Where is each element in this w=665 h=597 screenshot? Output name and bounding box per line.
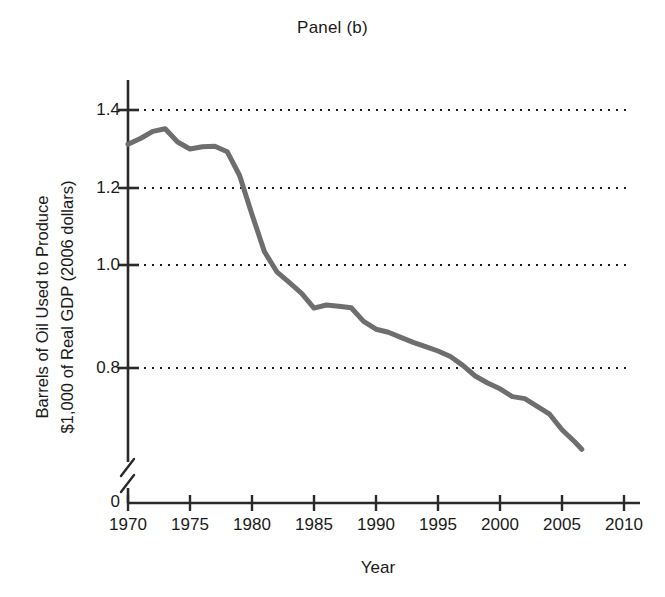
x-tick-label-2010: 2010	[593, 515, 655, 535]
y-tick-label-1.4: 1.4	[74, 100, 120, 120]
data-series-line	[128, 129, 582, 450]
chart-figure: Panel (b) Barrels of Oil Used to Produce…	[0, 0, 665, 597]
x-tick-label-1970: 1970	[97, 515, 159, 535]
x-tick-label-2000: 2000	[469, 515, 531, 535]
y-axis-title-line2: $1,000 of Real GDP (2006 dollars)	[58, 181, 76, 434]
x-tick-label-2005: 2005	[531, 515, 593, 535]
x-tick-label-1980: 1980	[221, 515, 283, 535]
chart-title: Panel (b)	[0, 18, 665, 38]
y-tick-label-0.8: 0.8	[74, 358, 120, 378]
y-axis-title-line1: Barrels of Oil Used to Produce	[33, 196, 51, 419]
x-tick-label-1975: 1975	[159, 515, 221, 535]
y-axis-title: Barrels of Oil Used to Produce $1,000 of…	[30, 107, 82, 507]
x-tick-label-1995: 1995	[407, 515, 469, 535]
x-tick-label-1990: 1990	[345, 515, 407, 535]
y-tick-label-1.2: 1.2	[74, 178, 120, 198]
x-tick-label-1985: 1985	[283, 515, 345, 535]
y-tick-label-1.0: 1.0	[74, 255, 120, 275]
x-axis-title: Year	[128, 558, 628, 578]
y-axis-break-icon	[121, 459, 134, 492]
y-tick-label-0: 0	[74, 492, 120, 512]
